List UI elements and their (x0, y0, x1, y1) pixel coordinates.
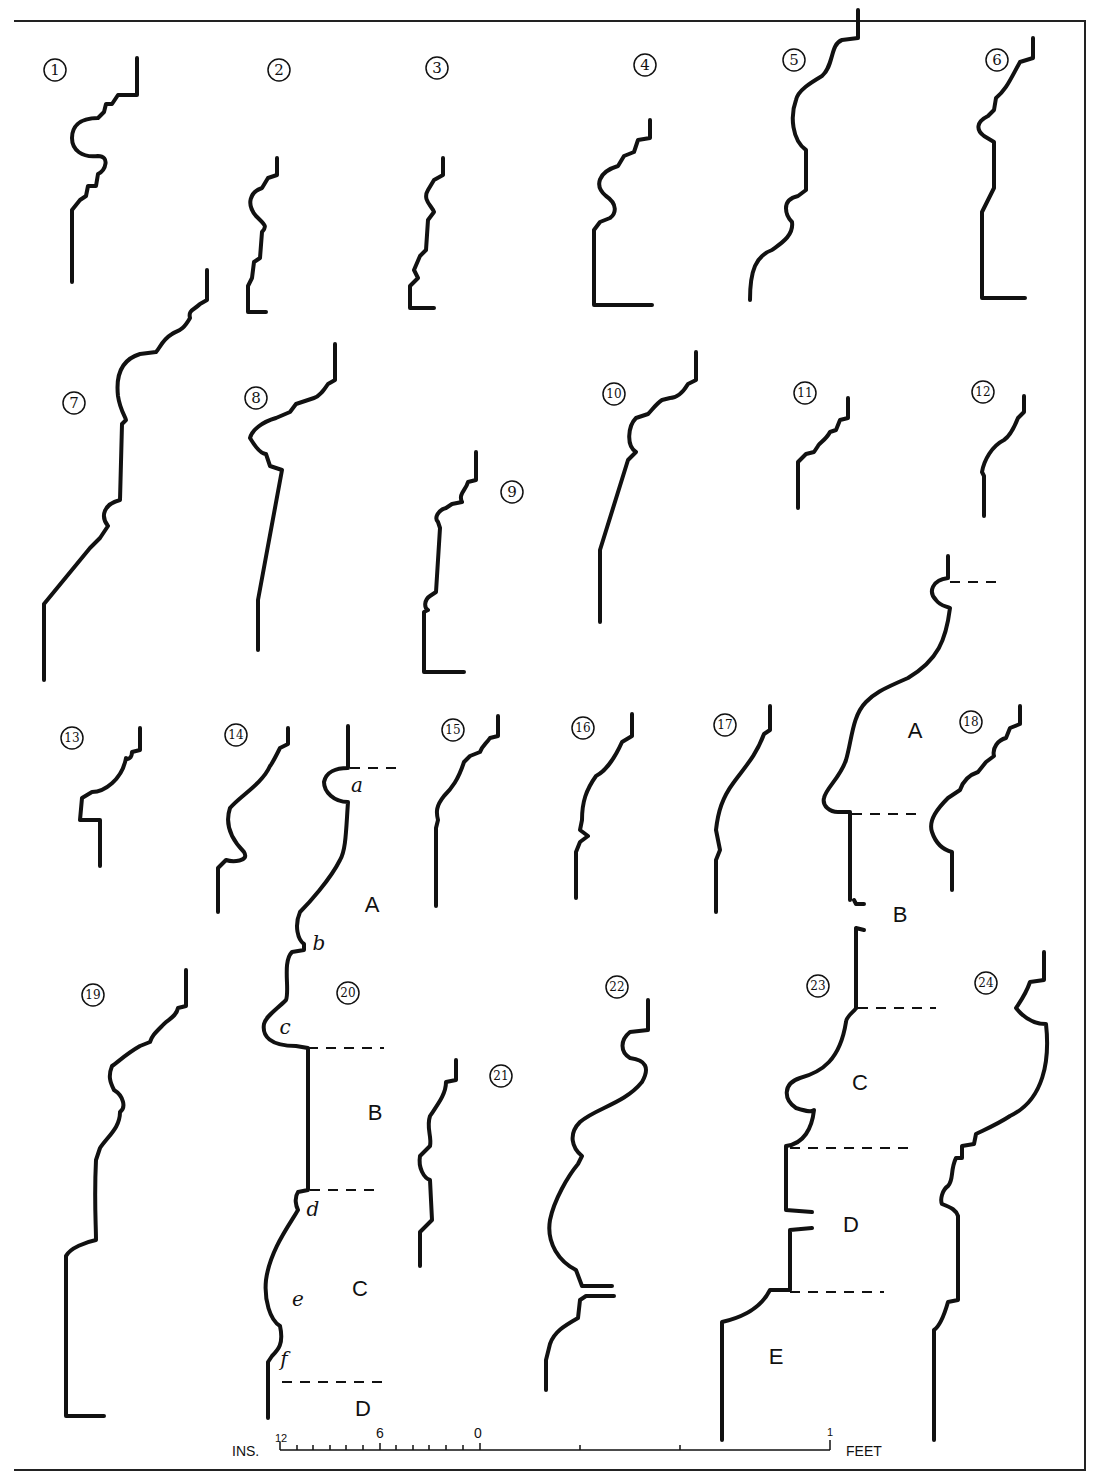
profile-number: 19 (85, 988, 100, 1002)
profile-number: 22 (609, 980, 624, 994)
profile-number: 4 (640, 56, 650, 74)
profile-number: 20 (340, 986, 355, 1000)
label-e: e (292, 1287, 304, 1311)
moldings-plate: 1 2 3 4 5 6 7 8 9 10 11 12 13 14 15 16 1… (0, 0, 1101, 1483)
profile-number: 7 (69, 394, 79, 412)
profile-number: 23 (810, 979, 825, 993)
section-B-20: B (368, 1100, 383, 1125)
section-B-23: B (893, 902, 908, 927)
profile-number: 21 (493, 1069, 508, 1083)
profile-23-b-gap (856, 928, 864, 1008)
scale-unit-inches: INS. (232, 1443, 259, 1459)
section-A-23: A (908, 718, 923, 743)
profile-18 (931, 706, 1020, 890)
label-f: f (278, 1347, 291, 1371)
profile-20 (264, 726, 348, 1418)
profile-7 (44, 270, 207, 680)
profile-24 (934, 952, 1047, 1440)
scale-tick-12: 12 (275, 1432, 287, 1444)
profile-number: 14 (228, 728, 244, 742)
profile-6 (978, 38, 1033, 298)
scale-tick-0: 0 (474, 1425, 482, 1441)
profile-number: 17 (717, 718, 732, 732)
label-a: a (351, 773, 363, 797)
scale-tick-1: 1 (827, 1426, 833, 1438)
profile-number: 13 (64, 731, 79, 745)
profile-15 (436, 716, 498, 906)
profile-number: 16 (575, 721, 590, 735)
profile-number: 18 (963, 715, 978, 729)
profile-12 (982, 396, 1024, 516)
profile-number: 1 (50, 61, 60, 79)
profile-2 (248, 158, 277, 312)
profile-16 (576, 714, 632, 898)
section-D-20: D (355, 1396, 371, 1421)
profile-number: 24 (978, 976, 994, 990)
profile-number: 11 (797, 386, 812, 400)
profile-14 (218, 728, 288, 912)
profile-number: 8 (251, 389, 261, 407)
profile-4 (594, 120, 652, 305)
profile-number: 12 (975, 385, 990, 399)
profile-number: 5 (789, 51, 799, 69)
profile-17 (716, 706, 770, 912)
profile-13 (80, 728, 140, 866)
profile-9 (424, 452, 476, 672)
profile-1 (72, 58, 137, 282)
label-b: b (313, 931, 326, 955)
profile-23-bottom (722, 1008, 856, 1440)
scale-tick-6: 6 (376, 1425, 384, 1441)
profile-number: 9 (507, 483, 517, 501)
section-E-23: E (769, 1344, 784, 1369)
label-d: d (307, 1197, 320, 1221)
profile-3 (410, 158, 443, 308)
section-A-20: A (365, 892, 380, 917)
profile-11 (798, 398, 848, 508)
profile-19 (66, 970, 186, 1416)
section-D-23: D (843, 1212, 859, 1237)
profile-number: 10 (606, 387, 621, 401)
profile-number: 15 (445, 723, 460, 737)
profile-23-top (824, 556, 950, 904)
profile-number: 6 (992, 51, 1002, 69)
profile-22 (546, 1000, 648, 1390)
profile-5 (750, 10, 858, 300)
profile-number: 3 (432, 59, 442, 77)
profile-21 (420, 1060, 456, 1266)
scale-bar (280, 1440, 830, 1450)
profile-number: 2 (274, 61, 284, 79)
label-c: c (279, 1015, 290, 1039)
section-C-20: C (352, 1276, 368, 1301)
section-C-23: C (852, 1070, 868, 1095)
profiles-drawing: 1 2 3 4 5 6 7 8 9 10 11 12 13 14 15 16 1… (0, 0, 1101, 1483)
scale-unit-feet: FEET (846, 1443, 882, 1459)
